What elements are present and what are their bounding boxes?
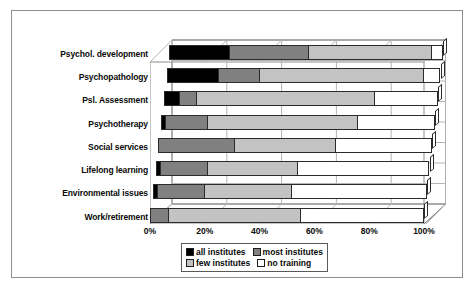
category-label: Psl. Assessment [14,95,148,105]
legend-item-most-institutes: most institutes [253,247,323,257]
x-tick-label: 20% [196,226,213,236]
bar-segment [166,115,207,130]
bar-segment [158,184,205,199]
bar-row [150,184,446,199]
x-axis-ticks: 0%20%40%60%80%100% [128,226,458,240]
bar-segment [167,68,219,83]
legend-label-few-institutes: few institutes [196,258,250,268]
bar-segment [205,184,293,199]
bar-segment [309,45,432,60]
legend-label-no-training: no training [267,258,311,268]
bar-segment [292,184,426,199]
legend-swatch-most-institutes-icon [253,248,261,256]
bar-segment [336,138,432,153]
bar-row [150,91,446,106]
x-tick-label: 0% [144,226,156,236]
legend-label-all-institutes: all institutes [196,247,246,257]
bar-segment [375,91,438,106]
legend-swatch-all-institutes-icon [186,248,194,256]
bar-segment [169,208,301,223]
category-label: Environmental issues [14,188,148,198]
category-label: Psychopathology [14,72,148,82]
category-label: Lifelong learning [14,165,148,175]
category-label: Social services [14,142,148,152]
legend-item-few-institutes: few institutes [186,258,250,268]
bar-segment [301,208,424,223]
bar-segment [150,208,169,223]
bar-segment [208,115,359,130]
category-label: Psychotherapy [14,119,148,129]
bar-segment [197,91,375,106]
category-axis-labels: Psychol. developmentPsychopathologyPsl. … [14,42,148,218]
bar-segment [164,91,180,106]
chart-legend: all institutes most institutes few insti… [181,243,328,272]
x-tick-label: 40% [251,226,268,236]
bar-depth-cap [438,84,442,102]
bar-segment [180,91,196,106]
category-label: Work/retirement [14,212,148,222]
bar-segment [219,68,260,83]
bar-depth-cap [441,61,445,79]
legend-row-1: all institutes most institutes [186,246,323,257]
bar-segment [230,45,309,60]
bar-segment [432,45,443,60]
bar-depth-cap [435,107,439,125]
chart-figure: Psychol. developmentPsychopathologyPsl. … [0,0,476,290]
bar-segment [298,161,430,176]
x-tick-label: 100% [413,226,435,236]
bar-segment [235,138,336,153]
legend-item-no-training: no training [257,258,311,268]
bar-segment [208,161,298,176]
bar-segment [161,161,208,176]
bar-depth-cap [432,131,436,149]
x-tick-label: 60% [306,226,323,236]
legend-swatch-few-institutes-icon [186,259,194,267]
bar-segment [260,68,424,83]
legend-row-2: few institutes no training [186,257,323,268]
stacked-bars [150,28,446,224]
plot-area [150,28,446,224]
legend-item-all-institutes: all institutes [186,247,246,257]
bar-segment [358,115,435,130]
bar-segment [158,138,235,153]
bar-depth-cap [443,38,447,56]
bar-depth-cap [430,154,434,172]
bar-row [150,45,446,60]
legend-swatch-no-training-icon [257,259,265,267]
legend-label-most-institutes: most institutes [263,247,323,257]
bar-row [150,68,446,83]
bar-row [150,115,446,130]
bar-row [150,208,446,223]
bar-segment [424,68,440,83]
x-tick-label: 80% [361,226,378,236]
bar-row [150,161,446,176]
category-label: Psychol. development [14,49,148,59]
bar-row [150,138,446,153]
bar-depth-cap [427,177,431,195]
bar-depth-cap [424,200,428,218]
bar-segment [169,45,229,60]
